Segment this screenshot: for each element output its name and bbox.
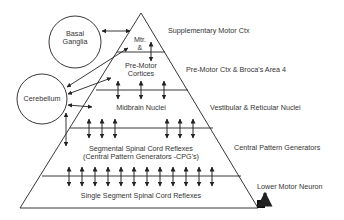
cerebellum-label: Cerebellum [24, 95, 61, 103]
mtr-label: Mtr. & [134, 36, 146, 52]
motor-hierarchy-diagram: Basal Ganglia Cerebellum Mtr. & Pre-Moto… [0, 0, 344, 220]
segmental-reflexes-label: Segmental Spinal Cord Reflexes (Central … [83, 145, 199, 161]
premotor-broca-label: Pre-Motor Ctx & Broca's Area 4 [186, 66, 286, 74]
supplementary-motor-label: Supplementary Motor Ctx [168, 27, 250, 35]
cerebellum-midbrain-arrow [68, 105, 92, 107]
single-segment-reflexes-label: Single Segment Spinal Cord Reflexes [81, 192, 201, 200]
lower-motor-neuron-label: Lower Motor Neuron [257, 183, 323, 191]
vestibular-reticular-label: Vestibular & Reticular Nuclei [210, 104, 301, 112]
lower-motor-neuron-output [257, 193, 265, 208]
cerebellum-mtr-arrow [67, 48, 128, 87]
cpg-side-label: Central Pattern Generators [234, 144, 320, 152]
connection-arrows [66, 31, 130, 146]
midbrain-nuclei-label: Midbrain Nuclei [116, 104, 166, 112]
premotor-cortices-label: Pre-Motor Cortices [125, 62, 157, 78]
cerebellum-premotor-arrow [68, 78, 111, 94]
basal-ganglia-label: Basal Ganglia [63, 30, 88, 46]
